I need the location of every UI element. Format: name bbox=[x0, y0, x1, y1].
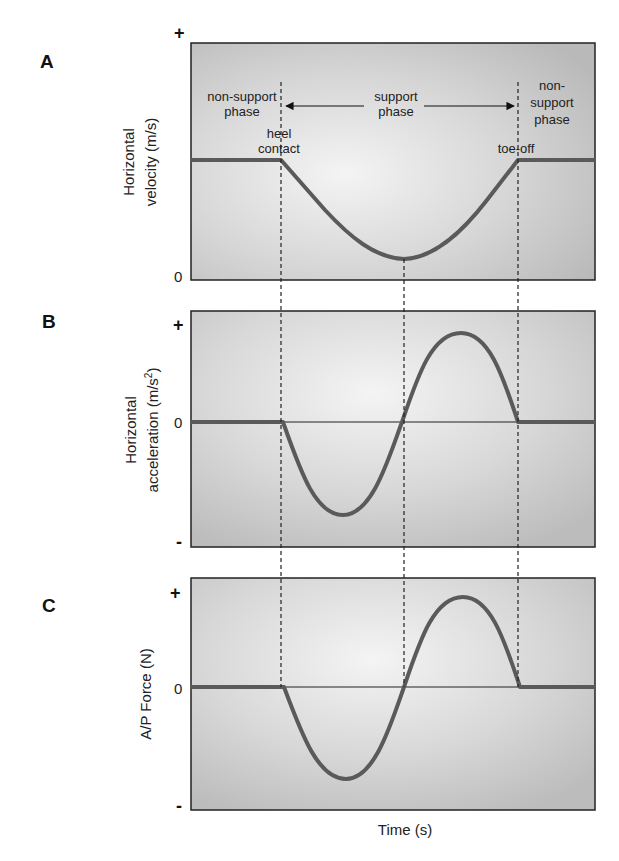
panel-letter-b: B bbox=[42, 311, 56, 332]
label-toe-off: toe-off bbox=[498, 141, 535, 156]
x-axis-label: Time (s) bbox=[378, 821, 432, 838]
label-support-1: support bbox=[374, 89, 418, 104]
label-non-support-left-1: non-support bbox=[207, 89, 277, 104]
plot-area-c bbox=[191, 578, 595, 810]
y-tick-plus-c: + bbox=[170, 583, 181, 603]
panel-letter-c: C bbox=[42, 595, 56, 616]
svg-text:Horizontal: Horizontal bbox=[122, 396, 139, 464]
y-tick-zero-c: 0 bbox=[174, 680, 182, 697]
y-tick-minus-b: - bbox=[176, 532, 182, 552]
panel-c: C + 0 - A/P Force (N) Time (s) bbox=[42, 578, 595, 838]
y-tick-plus-a: + bbox=[174, 23, 185, 43]
label-heel-contact-1: heel bbox=[267, 126, 292, 141]
svg-text:Horizontal: Horizontal bbox=[120, 128, 137, 196]
label-non-support-right-2: support bbox=[530, 95, 574, 110]
panel-a: A + 0 Horizontal velocity (m/s) non-supp… bbox=[40, 23, 595, 285]
label-non-support-right-1: non- bbox=[539, 78, 565, 93]
svg-text:velocity (m/s): velocity (m/s) bbox=[142, 118, 159, 206]
y-tick-zero-a: 0 bbox=[174, 268, 182, 285]
y-axis-label-b: Horizontal acceleration (m/s2) bbox=[122, 368, 161, 493]
panel-letter-a: A bbox=[40, 51, 54, 72]
y-tick-zero-b: 0 bbox=[174, 414, 182, 431]
y-axis-label-c: A/P Force (N) bbox=[137, 648, 154, 739]
panel-b: B + 0 - Horizontal acceleration (m/s2) bbox=[42, 311, 595, 552]
label-support-2: phase bbox=[378, 104, 413, 119]
label-non-support-left-2: phase bbox=[224, 104, 259, 119]
y-axis-label-a: Horizontal velocity (m/s) bbox=[120, 118, 159, 206]
plot-area-b bbox=[191, 311, 595, 547]
y-tick-minus-c: - bbox=[176, 796, 182, 816]
svg-text:A/P Force (N): A/P Force (N) bbox=[137, 648, 154, 739]
y-tick-plus-b: + bbox=[173, 315, 184, 335]
label-non-support-right-3: phase bbox=[534, 112, 569, 127]
svg-text:acceleration (m/s2): acceleration (m/s2) bbox=[143, 368, 161, 493]
figure-canvas: A + 0 Horizontal velocity (m/s) non-supp… bbox=[0, 0, 619, 861]
label-heel-contact-2: contact bbox=[258, 141, 300, 156]
